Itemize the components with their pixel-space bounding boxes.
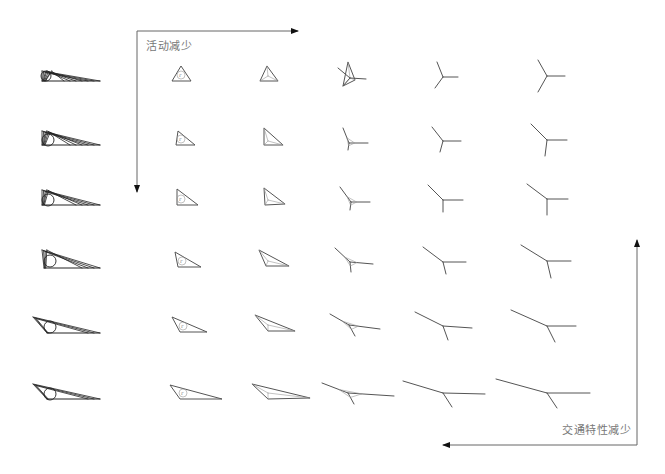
network-shape-r4-c3 (259, 250, 289, 266)
network-shape-r4-c4 (335, 248, 373, 272)
network-shape-r5-c6 (511, 310, 576, 342)
network-shape-r4-c6 (521, 245, 571, 278)
network-shape-r5-c4 (330, 314, 380, 336)
diagram-canvas: rrrrrr 活动减少 交通特性减少 (0, 0, 665, 474)
network-shape-r6-c3 (252, 384, 310, 399)
network-shape-r2-c2: r (176, 131, 195, 145)
traffic-decrease-label: 交通特性减少 (562, 421, 631, 437)
network-shape-r2-c5 (432, 127, 461, 152)
activity-decrease-label: 活动减少 (146, 37, 192, 53)
triangle-shape (260, 66, 278, 81)
radius-label: r (179, 136, 182, 142)
network-shape-r5-c5 (415, 312, 472, 340)
shapes-layer: rrrrrr (33, 60, 590, 408)
triangle-shape (170, 385, 222, 399)
triangle-shape (172, 317, 207, 332)
network-shape-r6-c2: r (170, 385, 222, 399)
network-shape-r3-c4 (340, 187, 370, 210)
network-shape-r1-c5 (435, 62, 458, 88)
radius-label: r (179, 72, 182, 78)
network-shape-r3-c3 (264, 188, 285, 205)
network-shape-r5-c2: r (172, 317, 207, 332)
network-shape-r4-c5 (423, 247, 466, 274)
network-shape-r3-c5 (428, 185, 463, 212)
network-shape-r4-c1 (42, 250, 100, 268)
network-shape-r3-c1 (42, 190, 100, 206)
radius-label: r (179, 196, 182, 202)
radius-label: r (180, 258, 183, 264)
radius-label: r (181, 390, 184, 396)
triangle-shape (175, 252, 201, 267)
network-shape-r2-c6 (531, 124, 567, 156)
network-shape-r2-c1 (42, 131, 100, 146)
diagram-svg: rrrrrr (0, 0, 665, 474)
network-shape-r1-c6 (538, 60, 565, 92)
network-shape-r2-c3 (264, 128, 283, 145)
network-shape-r1-c3 (260, 66, 278, 81)
network-shape-r3-c2: r (177, 189, 198, 205)
network-shape-r4-c2: r (175, 252, 201, 267)
network-shape-r5-c1 (33, 317, 100, 333)
network-shape-r1-c2: r (172, 66, 191, 81)
axes-layer (137, 31, 637, 445)
triangle-shape (264, 188, 285, 205)
network-shape-r2-c4 (343, 128, 368, 150)
network-shape-r5-c3 (255, 315, 295, 331)
inscribed-circle-icon (44, 388, 56, 400)
triangle-shape (255, 315, 295, 331)
network-shape-r6-c4 (322, 383, 394, 404)
network-shape-r6-c1 (33, 384, 100, 400)
triangle-shape (259, 250, 289, 266)
network-shape-r3-c6 (527, 184, 568, 215)
network-shape-r1-c1 (41, 71, 100, 81)
network-shape-r6-c6 (496, 379, 590, 408)
network-shape-r1-c4 (338, 62, 366, 86)
network-shape-r6-c5 (403, 381, 485, 407)
radius-label: r (181, 323, 184, 329)
